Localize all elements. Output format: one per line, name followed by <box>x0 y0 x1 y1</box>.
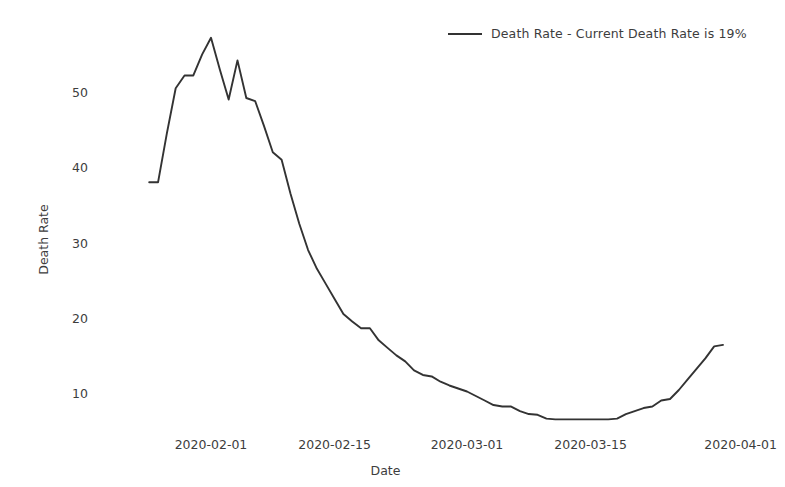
data-line-death-rate <box>149 38 723 420</box>
x-axis-title: Date <box>0 463 785 478</box>
x-axis-tick-label: 2020-03-15 <box>531 437 651 452</box>
y-axis-tick-label: 50 <box>48 85 88 100</box>
y-axis-title: Death Rate <box>36 180 51 300</box>
x-axis-title-text: Date <box>371 463 401 478</box>
chart-figure: Death Rate - Current Death Rate is 19% 1… <box>0 0 785 487</box>
x-axis-tick-label: 2020-02-15 <box>275 437 395 452</box>
x-axis-tick-label: 2020-04-01 <box>681 437 785 452</box>
chart-canvas <box>0 0 785 487</box>
x-axis-tick-label: 2020-02-01 <box>151 437 271 452</box>
y-axis-tick-label: 30 <box>48 235 88 250</box>
y-axis-tick-label: 10 <box>48 386 88 401</box>
plot-area <box>0 0 785 487</box>
y-axis-tick-label: 20 <box>48 310 88 325</box>
x-axis-tick-label: 2020-03-01 <box>407 437 527 452</box>
y-axis-tick-label: 40 <box>48 160 88 175</box>
